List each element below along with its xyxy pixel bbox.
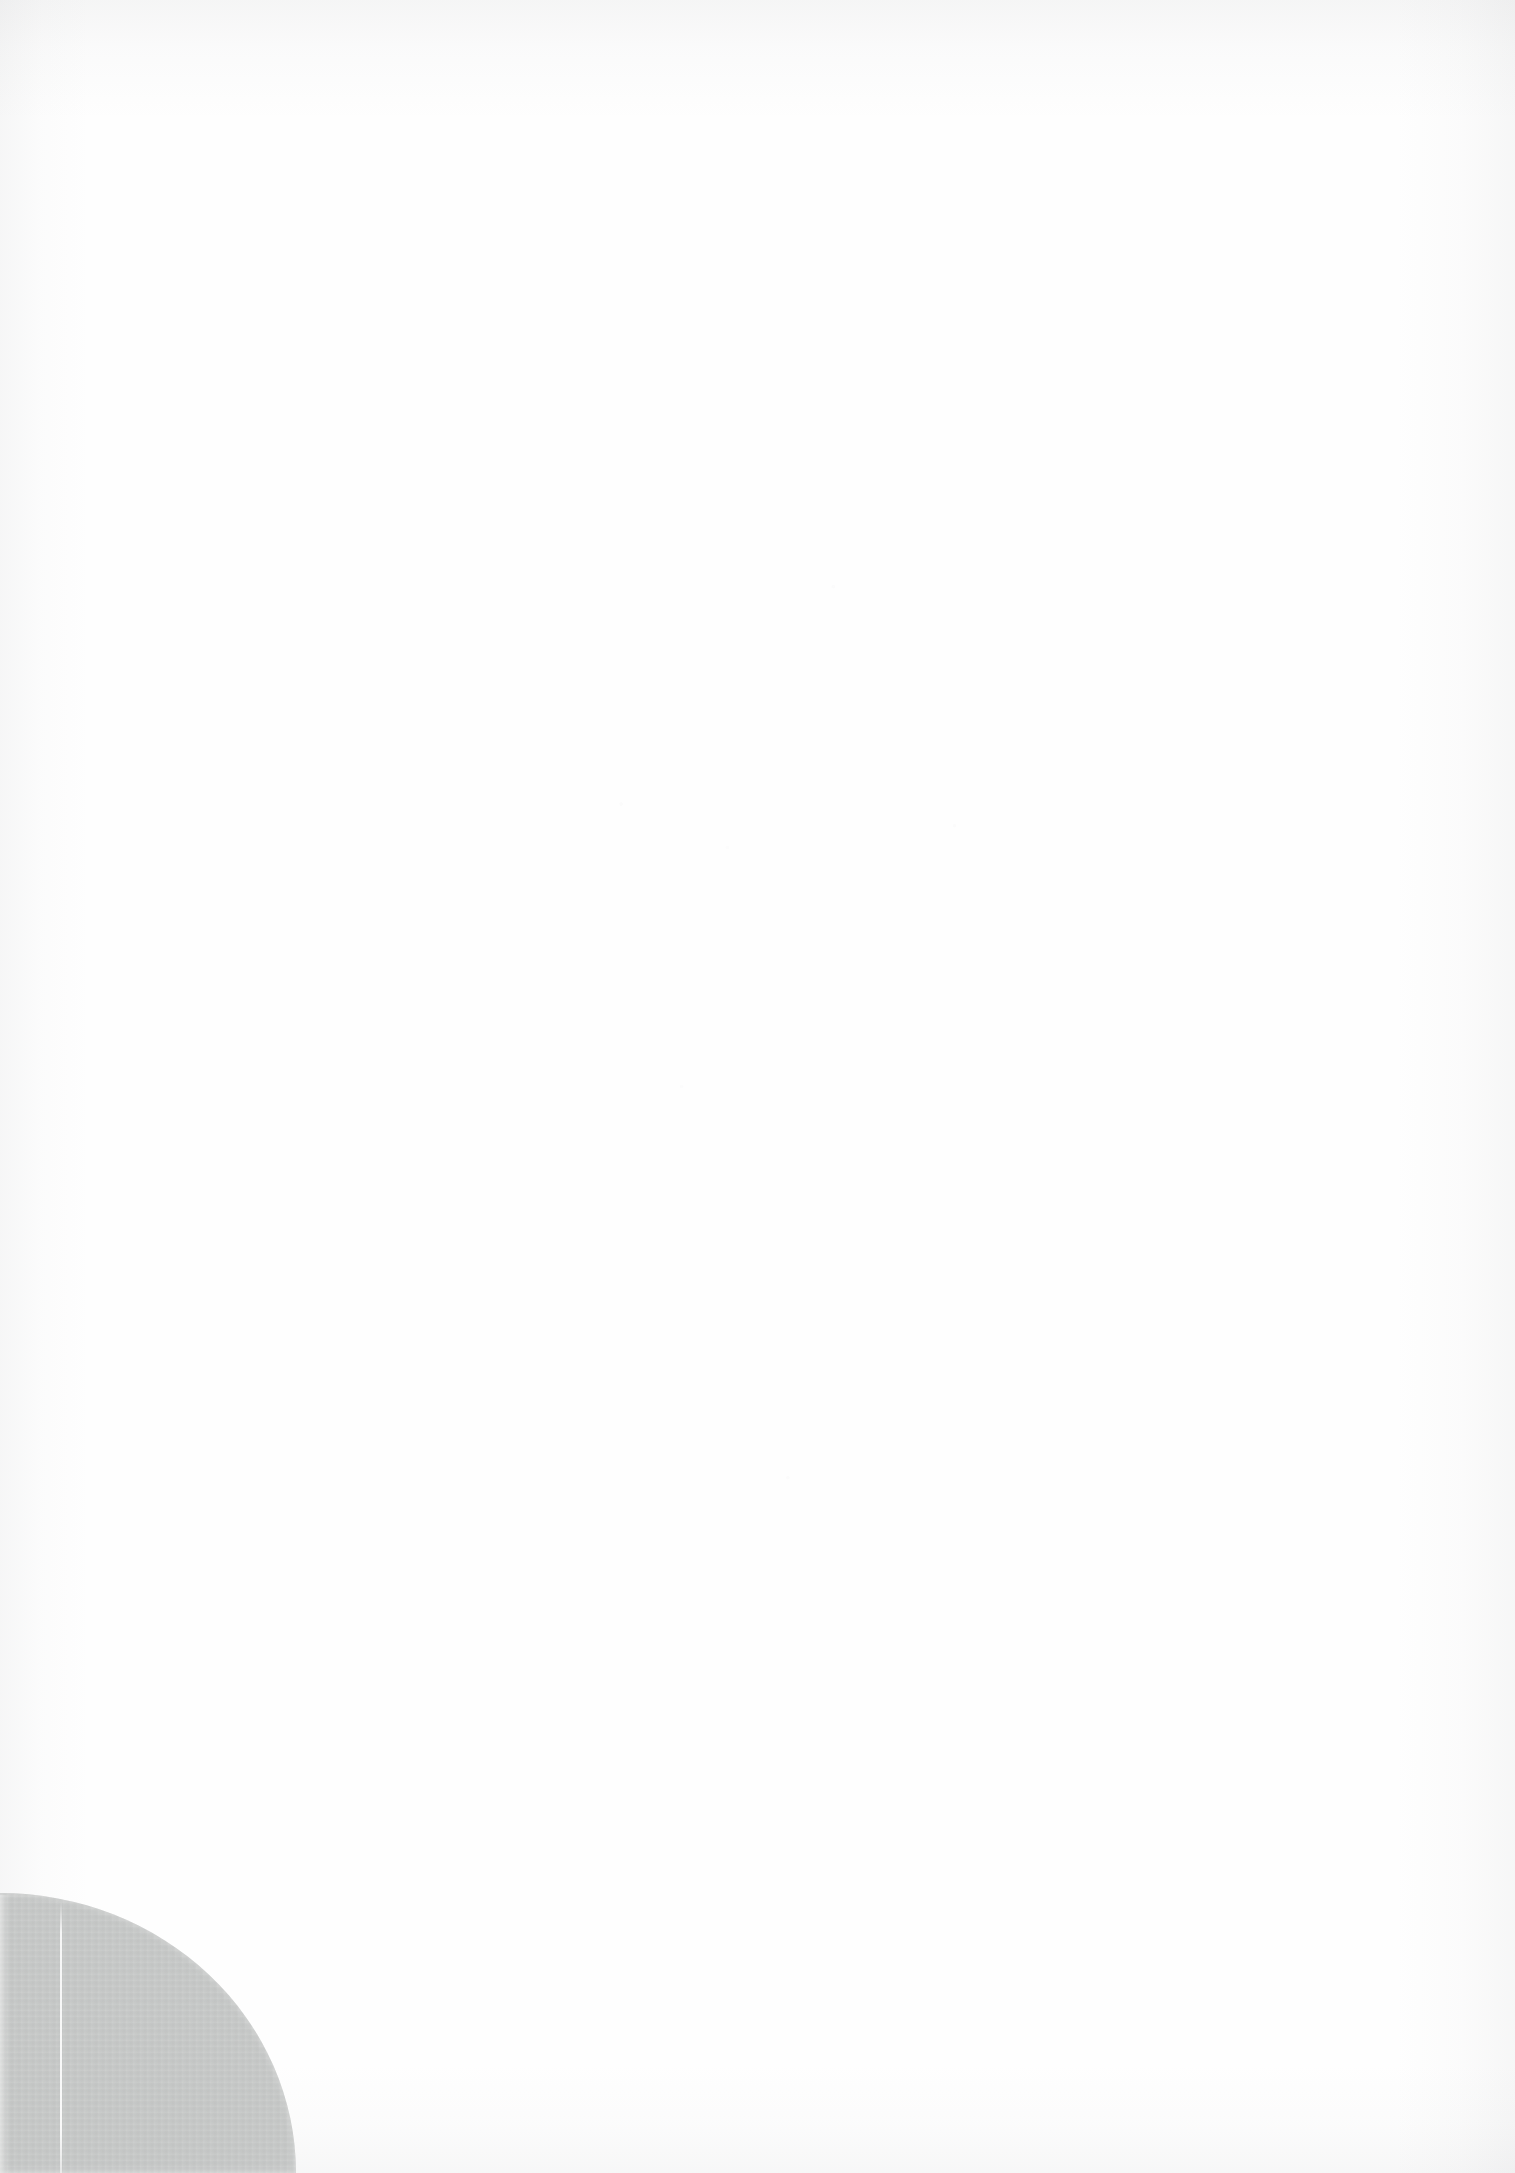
document-page <box>0 0 1515 2173</box>
paper-background <box>0 0 1515 2173</box>
